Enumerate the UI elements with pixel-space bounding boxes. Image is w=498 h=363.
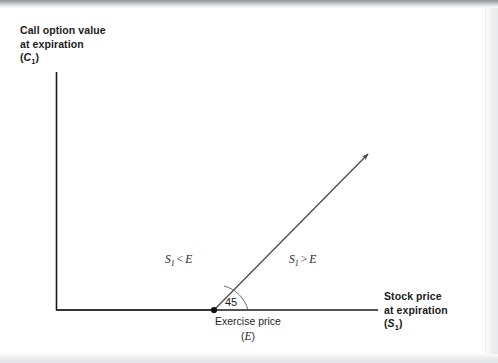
payoff-rising-segment [214,154,368,310]
exercise-price-label: Exercise price (E) [188,314,308,344]
region-right-compare: E [309,253,316,265]
y-axis-title-line1: Call option value [20,24,106,38]
y-axis-title-symbol: (C1) [20,51,106,69]
y-axis-title: Call option value at expiration (C1) [20,24,106,69]
exercise-price-text: Exercise price [188,314,308,329]
x-axis-symbol-subscript: 1 [395,323,399,332]
exercise-price-symbol: (E) [188,329,308,344]
plot-area: Call option value at expiration (C1) Sto… [0,0,498,363]
exercise-price-symbol-letter: E [244,330,251,342]
x-axis-title: Stock price at expiration (S1) [384,290,448,335]
region-left-operator: < [175,253,186,265]
x-axis-title-symbol: (S1) [384,317,448,335]
region-right-operator: > [299,253,310,265]
exercise-price-dot [211,307,217,313]
region-label-above-strike: S1>E [289,253,316,268]
x-axis-title-line1: Stock price [384,290,448,304]
option-payoff-figure: Call option value at expiration (C1) Sto… [0,0,498,363]
region-label-below-strike: S1<E [165,253,192,268]
angle-degrees-label: 45 [225,296,237,308]
x-axis-symbol-letter: S [388,317,395,329]
region-left-compare: E [185,253,192,265]
x-axis-title-line2: at expiration [384,304,448,318]
y-axis-title-line2: at expiration [20,38,106,52]
y-axis-symbol-subscript: 1 [31,57,35,66]
